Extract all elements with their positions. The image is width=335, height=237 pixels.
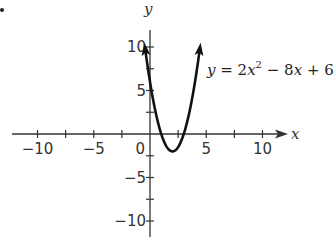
parabola-curve: [145, 49, 200, 152]
equation-label: y = 2x2 − 8x + 6: [206, 59, 334, 79]
y-axis: y: [143, 0, 154, 237]
x-tick-label: 0: [135, 140, 145, 158]
y-tick-label: 5: [136, 82, 146, 100]
x-tick-label: −5: [83, 140, 105, 158]
y-tick-label: −10: [114, 212, 146, 230]
graph-figure: x y −10−50510 105−5−10 y = 2x2 − 8x + 6: [0, 0, 335, 237]
x-tick-label: 5: [201, 140, 211, 158]
item-bullet: [0, 8, 4, 12]
x-tick-label: 10: [253, 140, 272, 158]
x-tick-label: −10: [22, 140, 54, 158]
x-axis-label: x: [291, 125, 300, 143]
y-axis-label: y: [143, 0, 153, 18]
y-tick-label: −5: [124, 169, 146, 187]
